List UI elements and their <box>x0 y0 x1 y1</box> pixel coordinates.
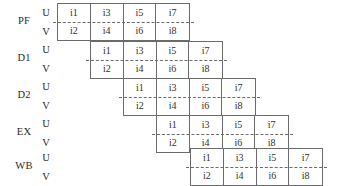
instruction-cell: i3 <box>157 79 190 97</box>
instruction-cell: i6 <box>257 167 290 185</box>
instruction-cell: i5 <box>223 116 256 134</box>
stage-label-d1: D1 <box>10 53 38 64</box>
instruction-cell: i8 <box>156 22 189 40</box>
instruction-cell: i1 <box>157 116 190 134</box>
instruction-cell: i7 <box>222 79 255 97</box>
instruction-cell: i2 <box>58 22 91 40</box>
instruction-cell: i7 <box>255 116 288 134</box>
instruction-cell: i1 <box>58 4 91 22</box>
stage-label-ex: EX <box>10 127 38 138</box>
instruction-cell: i7 <box>289 149 322 167</box>
instruction-cell: i3 <box>124 42 157 60</box>
pipe-u-label-d2: U <box>40 82 52 93</box>
stage-label-d2: D2 <box>10 90 38 101</box>
instruction-cell: i4 <box>224 167 257 185</box>
instruction-cell: i5 <box>124 4 157 22</box>
stage-label-pf: PF <box>10 16 38 27</box>
instruction-cell: i7 <box>156 4 189 22</box>
stage-label-wb: WB <box>10 161 38 172</box>
instruction-cell: i8 <box>289 167 322 185</box>
instruction-cell: i3 <box>91 4 124 22</box>
stage-band-pf: i1i3i5i7i2i4i6i8 <box>57 3 190 41</box>
instruction-cell: i3 <box>224 149 257 167</box>
instruction-cell: i5 <box>157 42 190 60</box>
instruction-cell: i2 <box>124 97 157 115</box>
instruction-cell: i7 <box>189 42 222 60</box>
pipeline-diagram: PFUVi1i3i5i7i2i4i6i8D1UVi1i3i5i7i2i4i6i8… <box>0 0 350 186</box>
instruction-cell: i5 <box>257 149 290 167</box>
stage-band-wb: i1i3i5i7i2i4i6i8 <box>190 148 323 186</box>
pipe-u-label-wb: U <box>40 153 52 164</box>
pipe-v-label-ex: V <box>40 138 52 149</box>
pipe-v-label-d2: V <box>40 101 52 112</box>
instruction-cell: i1 <box>191 149 224 167</box>
instruction-cell: i6 <box>124 22 157 40</box>
pipe-v-label-wb: V <box>40 172 52 183</box>
pipe-v-label-d1: V <box>40 64 52 75</box>
instruction-cell: i3 <box>190 116 223 134</box>
stage-band-d1: i1i3i5i7i2i4i6i8 <box>90 41 223 79</box>
instruction-cell: i2 <box>157 134 190 152</box>
pipe-u-label-d1: U <box>40 45 52 56</box>
pipe-u-label-pf: U <box>40 8 52 19</box>
instruction-cell: i4 <box>157 97 190 115</box>
instruction-cell: i8 <box>189 60 222 78</box>
instruction-cell: i1 <box>124 79 157 97</box>
instruction-cell: i8 <box>222 97 255 115</box>
instruction-cell: i2 <box>91 60 124 78</box>
pipe-u-label-ex: U <box>40 119 52 130</box>
instruction-cell: i6 <box>190 97 223 115</box>
pipe-v-label-pf: V <box>40 27 52 38</box>
instruction-cell: i4 <box>91 22 124 40</box>
stage-band-d2: i1i3i5i7i2i4i6i8 <box>123 78 256 116</box>
instruction-cell: i6 <box>157 60 190 78</box>
instruction-cell: i5 <box>190 79 223 97</box>
instruction-cell: i1 <box>91 42 124 60</box>
instruction-cell: i2 <box>191 167 224 185</box>
instruction-cell: i4 <box>124 60 157 78</box>
